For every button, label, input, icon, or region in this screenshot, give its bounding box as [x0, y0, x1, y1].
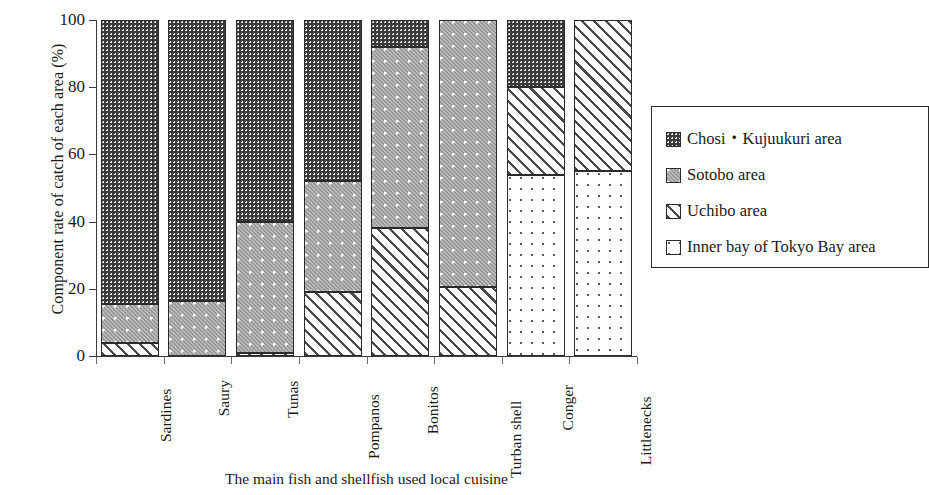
bar-segment	[101, 304, 159, 343]
bar-pompanos	[304, 20, 362, 356]
bar-littlenecks	[574, 20, 632, 356]
legend-label: Sotobo area	[687, 167, 765, 184]
x-category-label: Sardines	[157, 389, 175, 442]
bar-segment	[371, 228, 429, 356]
x-category-label: Turban shell	[507, 401, 525, 478]
x-category-label: Pompanos	[365, 394, 383, 459]
chart-legend: Chosi・Kujuukuri areaSotobo areaUchibo ar…	[651, 106, 929, 268]
bar-segment	[574, 171, 632, 356]
y-tick-label: 40	[68, 212, 85, 232]
legend-item: Chosi・Kujuukuri area	[666, 121, 928, 157]
bar-segment	[101, 20, 159, 304]
bar-segment	[168, 20, 226, 301]
legend-swatch-icon	[666, 240, 681, 255]
y-tick-label: 0	[77, 346, 86, 366]
bar-segment	[439, 20, 497, 287]
bar-segment	[507, 175, 565, 356]
bar-segment	[236, 353, 294, 356]
x-axis-category-labels: SardinesSauryTunasPompanosBonitosTurban …	[96, 362, 637, 467]
bar-bonitos	[371, 20, 429, 356]
legend-label: Uchibo area	[687, 203, 767, 220]
bar-tunas	[236, 20, 294, 356]
bar-sardines	[101, 20, 159, 356]
bar-segment	[304, 181, 362, 292]
plot-area: 100806040200	[96, 20, 636, 356]
bar-segment	[168, 301, 226, 356]
bar-segment	[101, 343, 159, 356]
y-tick-label: 20	[68, 279, 85, 299]
y-tick-mark	[89, 356, 96, 357]
bar-segment	[236, 20, 294, 222]
legend-label: Inner bay of Tokyo Bay area	[687, 239, 876, 256]
x-tick-mark	[637, 357, 638, 364]
y-tick-mark	[89, 20, 96, 21]
bar-segment	[304, 20, 362, 181]
legend-swatch-icon	[666, 132, 681, 147]
bar-segment	[371, 20, 429, 47]
bar-segment	[507, 20, 565, 87]
chart-figure: Component rate of catch of each area (%)…	[0, 0, 929, 495]
legend-item: Sotobo area	[666, 157, 928, 193]
x-category-label: Littlenecks	[638, 396, 656, 465]
x-axis-title: The main fish and shellfish used local c…	[96, 470, 637, 488]
bar-segment	[507, 87, 565, 174]
x-category-label: Bonitos	[424, 386, 442, 434]
y-tick-mark	[89, 222, 96, 223]
y-tick-mark	[89, 289, 96, 290]
x-category-label: Saury	[216, 380, 234, 416]
legend-item: Uchibo area	[666, 193, 928, 229]
y-tick-label: 60	[68, 144, 85, 164]
legend-swatch-icon	[666, 204, 681, 219]
legend-label: Chosi・Kujuukuri area	[687, 131, 842, 148]
bar-group	[96, 20, 637, 356]
bar-segment	[574, 20, 632, 171]
legend-swatch-icon	[666, 168, 681, 183]
y-tick-mark	[89, 87, 96, 88]
bar-segment	[236, 222, 294, 353]
y-tick-mark	[89, 154, 96, 155]
bar-segment	[439, 287, 497, 356]
y-tick-label: 80	[68, 77, 85, 97]
bar-turban-shell	[439, 20, 497, 356]
y-axis-title: Component rate of catch of each area (%)	[49, 9, 67, 349]
x-category-label: Conger	[558, 385, 576, 431]
y-tick-label: 100	[60, 10, 86, 30]
bar-saury	[168, 20, 226, 356]
bar-segment	[371, 47, 429, 228]
bar-conger	[507, 20, 565, 356]
bar-segment	[304, 292, 362, 356]
legend-item: Inner bay of Tokyo Bay area	[666, 229, 928, 265]
x-category-label: Tunas	[284, 381, 302, 418]
